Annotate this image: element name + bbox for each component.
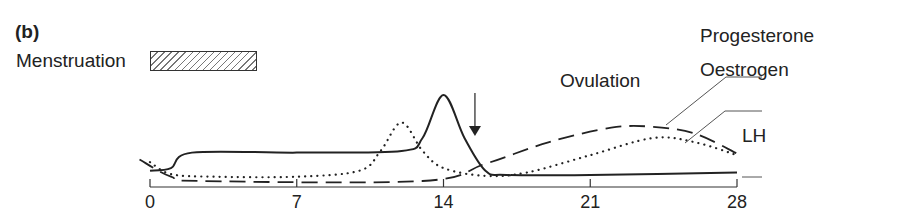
series-labels: Ovulation Progesterone Oestrogen LH [560,25,814,146]
ovulation-label: Ovulation [560,70,640,91]
x-axis: 07142128 [145,179,747,212]
oestrogen-label: Oestrogen [700,59,789,80]
oestrogen-curve [150,123,737,178]
lh-curve [150,95,737,175]
lh-label: LH [742,125,766,146]
hormone-curves [140,77,762,182]
hormone-chart: 07142128 Ovulation Progesterone Oestroge… [0,0,907,223]
progesterone-label: Progesterone [700,25,814,46]
x-tick-label: 7 [292,192,302,212]
x-tick-label: 28 [727,192,747,212]
x-tick-label: 0 [145,192,155,212]
x-tick-label: 14 [433,192,453,212]
x-tick-label: 21 [580,192,600,212]
arrowhead-icon [469,126,481,136]
